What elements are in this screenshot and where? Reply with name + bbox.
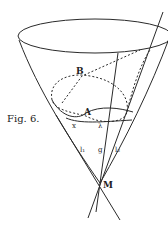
dashed-line-b — [62, 50, 140, 103]
label-g: g — [98, 146, 103, 154]
cone-top-ellipse — [18, 19, 168, 53]
label-x: x — [72, 122, 76, 130]
cone-diagram: B A M x λ l₁ g l₂ Fig. 6. — [0, 0, 168, 233]
label-l1: l₁ — [80, 146, 85, 154]
section-curve-solid — [52, 100, 133, 117]
point-label-b: B — [76, 66, 84, 76]
cone-figure: B A M x λ l₁ g l₂ Fig. 6. — [0, 0, 168, 233]
line-l2 — [88, 12, 163, 218]
label-l2: l₂ — [115, 146, 120, 154]
label-lambda: λ — [98, 122, 103, 130]
point-label-m: M — [103, 180, 113, 190]
point-label-a: A — [83, 107, 92, 117]
line-l1 — [56, 115, 120, 220]
figure-caption: Fig. 6. — [7, 113, 39, 124]
